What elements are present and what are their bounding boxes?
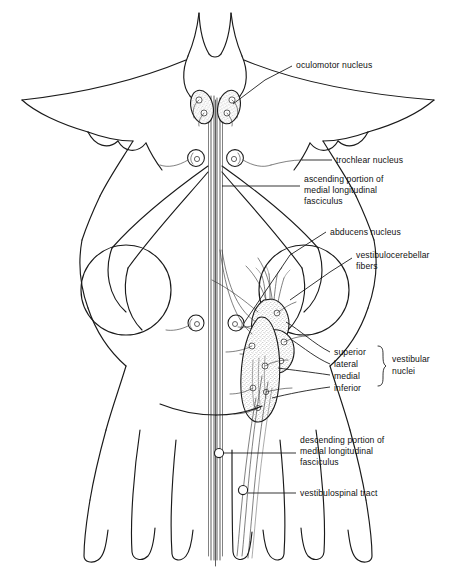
label-ascending-mlf-line1: ascending portion of [304, 174, 384, 184]
label-descending-mlf-line2: medial longitudinal [300, 446, 373, 456]
label-vestibulocerebellar-line2: fibers [356, 261, 378, 271]
label-descending-mlf-line1: descending portion of [300, 435, 385, 445]
callout-trochlear-nucleus: trochlear nucleus [302, 155, 403, 165]
vestibular-nerve-rootlets [256, 266, 290, 302]
callout-vestibulospinal-tract: vestibulospinal tract [248, 488, 378, 498]
label-descending-mlf-line3: fasciculus [300, 457, 339, 467]
oculomotor-nucleus-left [187, 88, 217, 126]
descending-mlf-neuron-upper [214, 448, 223, 457]
label-ascending-mlf-line2: medial longitudinal [304, 185, 377, 195]
label-vestibular-lateral: lateral [334, 359, 358, 369]
label-vestibulocerebellar-line1: vestibulocerebellar [356, 250, 430, 260]
abducens-nucleus-left [166, 315, 204, 331]
label-vestibular-superior: superior [334, 347, 366, 357]
medulla-outline [80, 240, 376, 562]
brainstem-diagram-svg: oculomotor nucleus trochlear nucleus asc… [0, 0, 457, 573]
pons-body-outline [112, 166, 318, 268]
callout-oculomotor-nucleus: oculomotor nucleus [233, 60, 372, 104]
callout-vestibular-subnuclei: superior lateral medial inferior vestibu… [272, 322, 430, 398]
label-vestibular-group-line2: nuclei [392, 366, 415, 376]
callout-vestibulocerebellar-fibers: vestibulocerebellar fibers [290, 250, 430, 300]
callout-ascending-mlf: ascending portion of medial longitudinal… [222, 174, 384, 206]
label-vestibular-inferior: inferior [334, 383, 361, 393]
label-ascending-mlf-line3: fasciculus [304, 196, 343, 206]
medial-longitudinal-fasciculus-bundle [209, 96, 223, 566]
label-trochlear-nucleus: trochlear nucleus [336, 155, 403, 165]
anatomy-figure: oculomotor nucleus trochlear nucleus asc… [0, 0, 457, 573]
trochlear-nucleus-right [227, 150, 302, 167]
vestibular-nuclei-brace [378, 346, 386, 386]
flocculus-circles [81, 245, 349, 335]
callout-descending-mlf: descending portion of medial longitudina… [224, 435, 385, 467]
midbrain-colliculi-outline [184, 13, 247, 104]
oculomotor-nucleus-right [214, 88, 244, 126]
label-vestibular-group-line1: vestibular [392, 354, 430, 364]
label-oculomotor-nucleus: oculomotor nucleus [296, 60, 372, 70]
trochlear-nucleus-left [160, 150, 204, 167]
label-vestibulospinal-tract: vestibulospinal tract [300, 488, 378, 498]
label-abducens-nucleus: abducens nucleus [330, 227, 401, 237]
vestibulospinal-neuron-lower [238, 485, 247, 494]
label-vestibular-medial: medial [334, 371, 360, 381]
